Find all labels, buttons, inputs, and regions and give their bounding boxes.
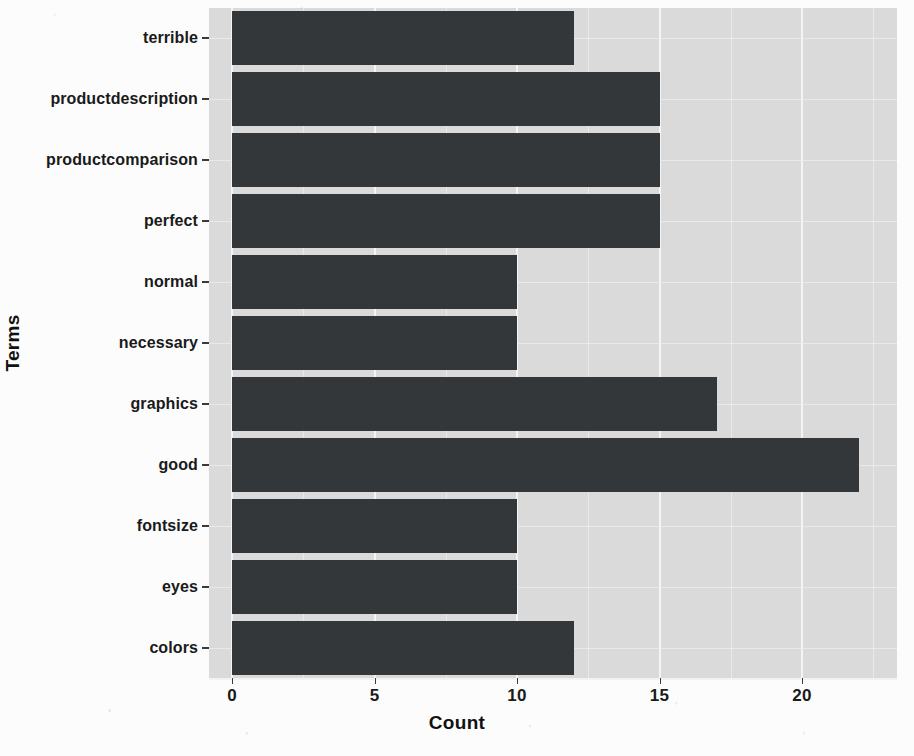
x-axis-tick — [802, 678, 803, 684]
bar — [232, 11, 574, 65]
x-axis-tick-label: 20 — [792, 686, 811, 706]
y-axis-tick-label: graphics — [131, 395, 199, 413]
y-axis-tick-label: normal — [144, 273, 198, 291]
bar — [232, 194, 660, 248]
x-axis-tick — [660, 678, 661, 684]
y-axis-tick — [202, 98, 209, 100]
y-axis-tick — [202, 37, 209, 39]
y-axis-tick — [202, 586, 209, 588]
bar — [232, 621, 574, 675]
y-axis-tick-label: terrible — [143, 29, 198, 47]
y-axis-tick — [202, 159, 209, 161]
bar — [232, 560, 517, 614]
y-axis-tick — [202, 647, 209, 649]
x-axis-tick-label: 10 — [507, 686, 526, 706]
y-axis-tick-label: perfect — [144, 212, 198, 230]
bar — [232, 499, 517, 553]
y-axis-tick-label: good — [159, 456, 199, 474]
y-axis-tick-label: fontsize — [137, 517, 198, 535]
x-axis-tick — [232, 678, 233, 684]
y-axis-tick-label: productdescription — [50, 90, 198, 108]
y-axis-tick — [202, 464, 209, 466]
y-axis-tick-label: eyes — [162, 578, 198, 596]
y-axis-tick — [202, 220, 209, 222]
bar — [232, 255, 517, 309]
y-axis-title: Terms — [2, 314, 24, 371]
bar-chart-figure: Count Terms terribleproductdescriptionpr… — [0, 0, 914, 756]
plot-panel — [209, 8, 897, 678]
y-axis-tick-label: necessary — [119, 334, 198, 352]
x-axis-tick-label: 5 — [370, 686, 380, 706]
y-axis-tick — [202, 525, 209, 527]
bar — [232, 133, 660, 187]
y-axis-tick-label: colors — [149, 639, 198, 657]
x-axis-tick — [375, 678, 376, 684]
bar — [232, 72, 660, 126]
bar — [232, 438, 859, 492]
x-axis-tick-label: 0 — [227, 686, 237, 706]
y-axis-tick — [202, 403, 209, 405]
y-axis-tick — [202, 281, 209, 283]
bar — [232, 316, 517, 370]
y-axis-tick — [202, 342, 209, 344]
x-axis-tick — [517, 678, 518, 684]
x-axis-line — [209, 678, 897, 680]
bar — [232, 377, 717, 431]
y-axis-tick-label: productcomparison — [46, 151, 198, 169]
x-axis-tick-label: 15 — [650, 686, 669, 706]
x-axis-title: Count — [0, 712, 914, 734]
